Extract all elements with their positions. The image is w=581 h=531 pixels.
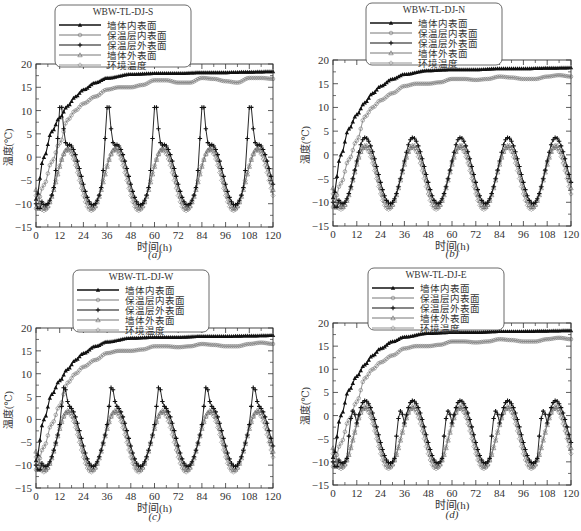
chart-panel-c: 01224364860728496108120−15−10−505101520时… bbox=[2, 270, 282, 523]
x-tick-label: 12 bbox=[351, 487, 362, 499]
series-2 bbox=[34, 105, 275, 211]
x-tick-label: 24 bbox=[78, 490, 90, 502]
y-tick-label: 15 bbox=[318, 78, 330, 90]
legend-title: WBW-TL-DJ-S bbox=[93, 7, 154, 17]
x-tick-label: 60 bbox=[447, 487, 459, 499]
y-tick-label: −15 bbox=[15, 221, 33, 233]
series-0 bbox=[331, 328, 573, 459]
x-tick-label: 0 bbox=[33, 229, 39, 241]
series-0 bbox=[331, 65, 573, 199]
y-tick-label: −10 bbox=[312, 456, 330, 468]
chart-panel-d: 01224364860728496108120−15−10−505101520时… bbox=[299, 268, 580, 521]
x-tick-label: 12 bbox=[54, 490, 65, 502]
x-tick-label: 72 bbox=[173, 490, 184, 502]
y-tick-label: 10 bbox=[318, 101, 330, 113]
x-tick-label: 84 bbox=[494, 228, 506, 240]
x-tick-label: 48 bbox=[423, 228, 435, 240]
y-tick-label: −5 bbox=[317, 173, 329, 185]
legend-item-label: 保温层内表面 bbox=[125, 295, 185, 306]
legend-item-label: 环境温度 bbox=[420, 323, 460, 334]
legend-item-label: 环境温度 bbox=[418, 58, 458, 69]
legend-item-label: 保温层外表面 bbox=[107, 40, 167, 51]
y-tick-label: −5 bbox=[317, 433, 329, 445]
legend-item-label: 墙体内表面 bbox=[107, 20, 157, 31]
y-axis-label: 温度(℃) bbox=[2, 391, 15, 429]
y-tick-label: 20 bbox=[318, 317, 330, 329]
chart-canvas: 01224364860728496108120−15−10−505101520时… bbox=[0, 0, 581, 531]
legend-item-label: 墙体内表面 bbox=[420, 283, 470, 294]
y-tick-label: −5 bbox=[20, 174, 32, 186]
y-tick-label: 10 bbox=[21, 368, 33, 380]
x-tick-label: 108 bbox=[539, 487, 556, 499]
x-tick-label: 24 bbox=[78, 229, 90, 241]
legend-item-label: 保温层内表面 bbox=[420, 293, 480, 304]
y-tick-label: −15 bbox=[312, 479, 330, 491]
chart-panel-a: 01224364860728496108120−15−10−505101520时… bbox=[2, 5, 282, 261]
x-tick-label: 96 bbox=[518, 228, 530, 240]
y-tick-label: −10 bbox=[15, 459, 33, 471]
legend-title: WBW-TL-DJ-N bbox=[403, 5, 465, 15]
y-tick-label: 0 bbox=[324, 410, 330, 422]
y-tick-label: −15 bbox=[15, 482, 33, 494]
x-tick-label: 60 bbox=[447, 228, 459, 240]
y-tick-label: −15 bbox=[312, 220, 330, 232]
x-tick-label: 120 bbox=[563, 228, 580, 240]
x-tick-label: 60 bbox=[149, 490, 161, 502]
legend: WBW-TL-DJ-N墙体内表面保温层内表面保温层外表面墙体外表面环境温度 bbox=[366, 3, 502, 69]
x-tick-label: 96 bbox=[220, 490, 232, 502]
legend-item-label: 保温层内表面 bbox=[107, 30, 167, 41]
legend-item-label: 墙体外表面 bbox=[418, 48, 468, 59]
y-tick-label: 15 bbox=[21, 345, 33, 357]
x-tick-label: 96 bbox=[518, 487, 530, 499]
y-tick-label: 0 bbox=[27, 151, 33, 163]
panel-caption: (d) bbox=[446, 508, 459, 521]
legend-item-label: 环境温度 bbox=[107, 60, 147, 71]
panel-caption: (b) bbox=[446, 247, 459, 260]
x-tick-label: 108 bbox=[241, 490, 258, 502]
figure: 01224364860728496108120−15−10−505101520时… bbox=[0, 0, 581, 531]
chart-panel-b: 01224364860728496108120−15−10−505101520时… bbox=[299, 3, 580, 260]
y-axis-label: 温度(℃) bbox=[299, 126, 312, 164]
legend-title: WBW-TL-DJ-E bbox=[405, 270, 466, 280]
y-tick-label: 15 bbox=[21, 81, 33, 93]
y-tick-label: 15 bbox=[318, 340, 330, 352]
x-tick-label: 12 bbox=[54, 229, 65, 241]
legend-item-label: 墙体外表面 bbox=[125, 315, 175, 326]
x-tick-label: 0 bbox=[33, 490, 39, 502]
x-tick-label: 72 bbox=[470, 228, 481, 240]
legend-item-label: 墙体外表面 bbox=[420, 313, 470, 324]
x-tick-label: 120 bbox=[265, 229, 282, 241]
y-tick-label: 5 bbox=[324, 125, 330, 137]
legend: WBW-TL-DJ-W墙体内表面保温层内表面保温层外表面墙体外表面环境温度 bbox=[73, 270, 209, 336]
y-axis-label: 温度(℃) bbox=[299, 387, 312, 425]
y-tick-label: 10 bbox=[21, 105, 33, 117]
legend-item-label: 环境温度 bbox=[125, 325, 165, 336]
legend-item-label: 保温层外表面 bbox=[420, 303, 480, 314]
x-tick-label: 84 bbox=[494, 487, 506, 499]
legend-item-label: 墙体内表面 bbox=[125, 285, 175, 296]
x-tick-label: 48 bbox=[125, 229, 137, 241]
x-tick-label: 0 bbox=[330, 228, 336, 240]
y-tick-label: 5 bbox=[27, 391, 33, 403]
y-tick-label: 5 bbox=[324, 386, 330, 398]
x-tick-label: 36 bbox=[102, 229, 114, 241]
legend-item-label: 保温层外表面 bbox=[125, 305, 185, 316]
panel-caption: (a) bbox=[148, 248, 161, 261]
x-tick-label: 96 bbox=[220, 229, 232, 241]
x-tick-label: 120 bbox=[265, 490, 282, 502]
x-tick-label: 24 bbox=[375, 487, 387, 499]
series-0 bbox=[34, 69, 275, 201]
legend-item-label: 保温层外表面 bbox=[418, 38, 478, 49]
legend-item-label: 墙体内表面 bbox=[418, 18, 468, 29]
x-tick-label: 108 bbox=[539, 228, 556, 240]
x-tick-label: 72 bbox=[173, 229, 184, 241]
y-tick-label: −10 bbox=[15, 198, 33, 210]
x-tick-label: 72 bbox=[470, 487, 481, 499]
y-tick-label: −10 bbox=[312, 196, 330, 208]
x-tick-label: 0 bbox=[330, 487, 336, 499]
panel-caption: (c) bbox=[148, 510, 161, 523]
series-0 bbox=[34, 333, 275, 462]
series-1 bbox=[34, 76, 275, 210]
y-tick-label: 20 bbox=[318, 54, 330, 66]
x-tick-label: 12 bbox=[351, 228, 362, 240]
